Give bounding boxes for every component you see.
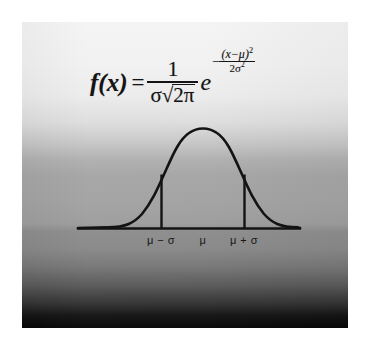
figure-canvas: f(x) = 1 σ√2π e − (x−μ)2 2σ2 [0,0,370,350]
gaussian-curve [78,129,300,229]
bell-curve-plot [22,22,348,328]
gaussian-figure-plate: f(x) = 1 σ√2π e − (x−μ)2 2σ2 [22,22,348,328]
